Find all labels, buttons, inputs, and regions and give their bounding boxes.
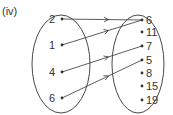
codomain-dot xyxy=(141,59,144,62)
codomain-elements: 6117581519 xyxy=(141,14,159,106)
codomain-element: 5 xyxy=(146,54,152,66)
codomain-element: 11 xyxy=(146,26,157,38)
codomain-dot xyxy=(141,99,144,102)
mapping-arrow xyxy=(62,46,142,72)
domain-dot xyxy=(61,44,64,47)
codomain-element: 8 xyxy=(146,67,152,79)
domain-dot xyxy=(61,18,64,21)
codomain-element: 7 xyxy=(146,40,152,52)
domain-elements: 2146 xyxy=(49,13,63,104)
domain-element: 6 xyxy=(49,92,55,104)
codomain-element: 6 xyxy=(146,14,152,26)
arrows-group xyxy=(62,17,142,98)
domain-dot xyxy=(61,97,64,100)
domain-element: 4 xyxy=(49,66,55,78)
domain-element: 1 xyxy=(49,39,55,51)
codomain-element: 19 xyxy=(146,94,158,106)
domain-dot xyxy=(61,71,64,74)
codomain-element: 15 xyxy=(146,80,158,92)
codomain-dot xyxy=(141,19,144,22)
codomain-dot xyxy=(141,85,144,88)
codomain-dot xyxy=(141,45,144,48)
part-label: (iv) xyxy=(2,5,17,17)
mapping-diagram: (iv) 2146 6117581519 xyxy=(0,0,173,115)
domain-element: 2 xyxy=(49,13,55,25)
mapping-arrow xyxy=(62,60,142,98)
mapping-arrow xyxy=(62,20,142,45)
codomain-dot xyxy=(141,31,144,34)
codomain-dot xyxy=(141,72,144,75)
